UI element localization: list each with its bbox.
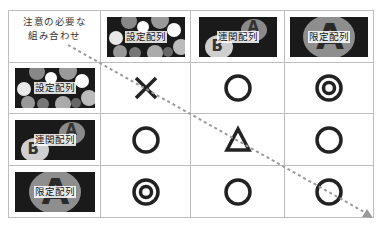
cell-gentei-renkan [191,166,284,217]
column-header-label: 限定配列 [308,31,350,43]
circle-icon [223,73,253,103]
column-header-gentei: A 限定配列 [285,11,373,62]
scattered-circles-image: 設定配列 [15,68,95,108]
cell-gentei-gentei [285,166,373,217]
corner-label-line1: 注意の必要な [23,15,86,29]
linked-a-b-image: A B 連関配列 [15,120,95,160]
cell-settei-gentei [285,63,373,113]
cell-renkan-gentei [285,114,373,165]
row-header-gentei: A 限定配列 [9,166,100,217]
triangle-icon [223,125,253,155]
corner-cell: 注意の必要な 組み合わせ [9,11,100,47]
column-header-renkan: A B 連関配列 [191,11,284,62]
row-header-label: 連関配列 [34,134,76,146]
cell-gentei-settei [101,166,190,217]
cell-settei-settei [101,63,190,113]
cell-renkan-settei [101,114,190,165]
cell-settei-renkan [191,63,284,113]
grid-line [8,217,374,218]
double-circle-icon [131,177,161,207]
double-circle-icon [314,73,344,103]
column-header-label: 設定配列 [125,31,167,43]
row-header-label: 限定配列 [34,186,76,198]
row-header-renkan: A B 連関配列 [9,114,100,165]
large-a-ellipse-image: A 限定配列 [290,17,368,57]
corner-label: 注意の必要な 組み合わせ [23,15,86,43]
grid-line [373,10,374,218]
row-header-label: 設定配列 [34,82,76,94]
large-a-ellipse-image: A 限定配列 [15,172,95,212]
circle-icon [314,177,344,207]
scattered-circles-image: 設定配列 [107,17,185,57]
row-header-settei: 設定配列 [9,63,100,113]
circle-icon [131,125,161,155]
circle-icon [223,177,253,207]
column-header-label: 連関配列 [217,31,259,43]
linked-a-b-image: A B 連関配列 [199,17,277,57]
cell-renkan-renkan [191,114,284,165]
column-header-settei: 設定配列 [101,11,190,62]
combination-table: 注意の必要な 組み合わせ 設定配列 A B 連関配列 [8,10,374,218]
cross-icon [132,74,160,102]
corner-label-line2: 組み合わせ [23,29,86,43]
circle-icon [314,125,344,155]
